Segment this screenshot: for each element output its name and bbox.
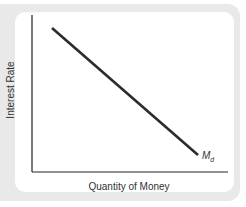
y-axis-label: Interest Rate bbox=[5, 61, 16, 118]
curve-label-md: Md bbox=[202, 150, 214, 163]
money-demand-chart bbox=[0, 0, 246, 207]
figure: Interest Rate Quantity of Money Md bbox=[0, 0, 246, 207]
money-demand-curve bbox=[52, 28, 198, 155]
curve-label-subscript: d bbox=[210, 156, 214, 163]
x-axis-label: Quantity of Money bbox=[88, 181, 169, 192]
